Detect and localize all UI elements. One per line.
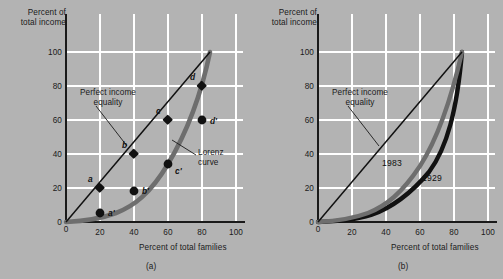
lorenz-curve-figure: Percent of total income (0, 0, 503, 279)
panel-a-point-label-b: b (122, 140, 127, 150)
panel-b-xtick-100: 100 (473, 228, 503, 237)
panel-b-xtick-20: 20 (337, 228, 367, 237)
panel-b-ytick-100: 100 (284, 48, 314, 57)
panel-a-ytick-80: 80 (32, 82, 62, 91)
panel-b-series-label-1983: 1983 (382, 158, 402, 168)
panel-b-ytick-20: 20 (284, 184, 314, 193)
panel-a-ytick-100: 100 (32, 48, 62, 57)
panel-a-point-label-c: c (156, 106, 161, 116)
panel-a-point-label-b-prime: b' (142, 186, 149, 196)
panel-a-ytick-40: 40 (32, 150, 62, 159)
panel-a-point-label-d-prime: d' (210, 116, 217, 126)
panel-b-xtick-80: 80 (439, 228, 469, 237)
panel-a-xtick-0: 0 (51, 225, 81, 234)
panel-b-plot (251, 0, 503, 279)
panel-b-annotation-perfect-income-equality: Perfect income equality (312, 88, 408, 108)
panel-a-xtick-60: 60 (153, 228, 183, 237)
panel-b: Percent of total income (251, 0, 503, 279)
panel-a-equality-line (66, 52, 210, 222)
panel-b-xtick-0: 0 (303, 225, 333, 234)
panel-b-ytick-60: 60 (284, 116, 314, 125)
panel-a: Percent of total income (0, 0, 251, 279)
panel-a-xtick-80: 80 (187, 228, 217, 237)
panel-a-caption: (a) (146, 262, 156, 271)
panel-b-xtick-40: 40 (371, 228, 401, 237)
panel-a-xtick-20: 20 (85, 228, 115, 237)
panel-a-annotation-perfect-income-equality: Perfect income equality (60, 88, 156, 108)
panel-a-point-label-a-prime: a' (108, 208, 115, 218)
panel-a-xtick-100: 100 (221, 228, 251, 237)
panel-b-caption: (b) (398, 262, 408, 271)
panel-b-ytick-40: 40 (284, 150, 314, 159)
panel-a-ytick-60: 60 (32, 116, 62, 125)
panel-a-point-label-d: d (190, 72, 195, 82)
panel-b-xtick-60: 60 (405, 228, 435, 237)
panel-b-series-label-1929: 1929 (422, 173, 442, 183)
panel-a-point-label-c-prime: c' (175, 166, 182, 176)
panel-b-x-axis-title: Percent of total families (391, 243, 479, 252)
panel-a-ytick-20: 20 (32, 184, 62, 193)
panel-b-equality-line (318, 52, 462, 222)
panel-b-ytick-80: 80 (284, 82, 314, 91)
panel-a-xtick-40: 40 (119, 228, 149, 237)
panel-a-annotation-lorenz-curve: Lorenz curve (198, 148, 248, 168)
panel-a-x-axis-title: Percent of total families (139, 243, 227, 252)
panel-a-point-label-a: a (88, 174, 93, 184)
